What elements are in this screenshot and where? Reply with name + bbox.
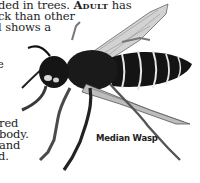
hind-leg-icon <box>64 88 91 170</box>
middle-leg-icon <box>40 88 70 160</box>
head-icon <box>39 56 69 88</box>
front-leg-icon <box>22 86 46 110</box>
illustration-caption: Median Wasp <box>96 133 158 143</box>
field-guide-page: ded in trees. Adult has ck than other l … <box>0 0 200 183</box>
wasp-illustration <box>0 0 200 183</box>
antenna-icon <box>28 46 50 56</box>
